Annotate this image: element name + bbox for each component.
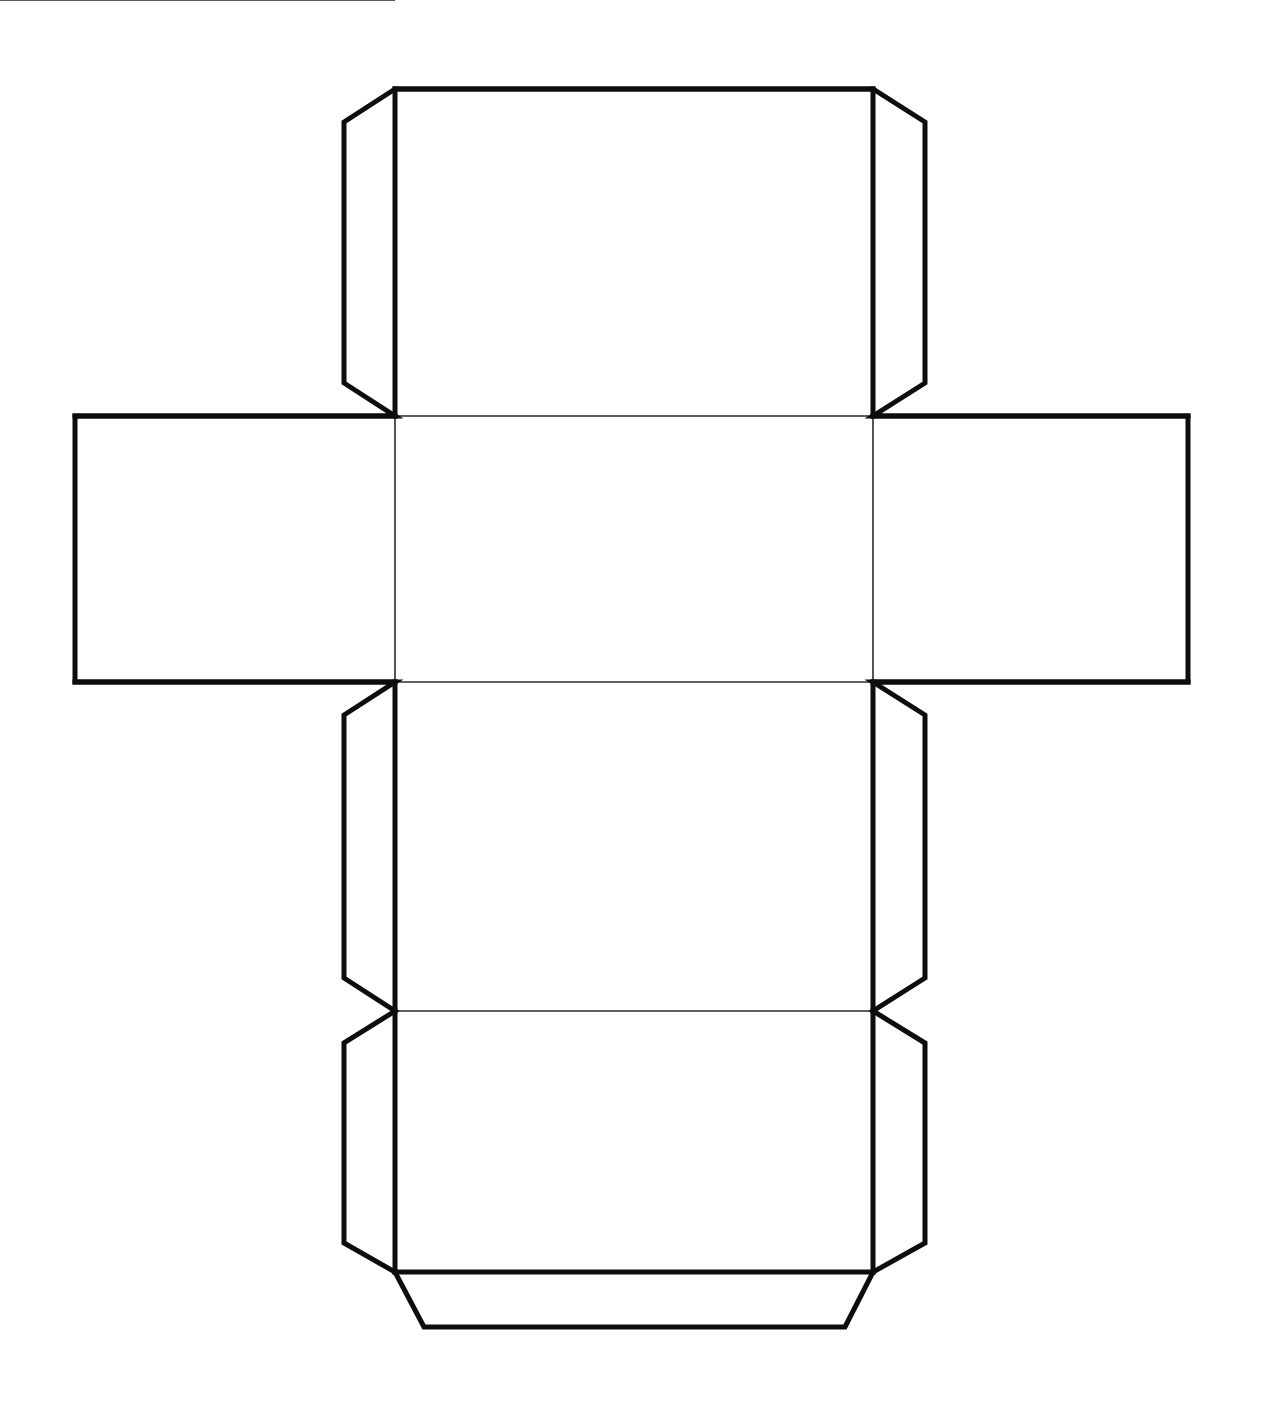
left-panel xyxy=(75,416,395,682)
flap-top-right xyxy=(873,89,925,416)
right-panel xyxy=(873,416,1188,682)
flap-mid-left xyxy=(344,682,395,1011)
flap-bottom-left xyxy=(344,1011,395,1272)
top-panel xyxy=(395,89,873,416)
flap-mid-right xyxy=(873,682,925,1011)
flap-bottom xyxy=(395,1272,873,1327)
flap-bottom-right xyxy=(873,1011,925,1272)
bottom-panel xyxy=(395,1011,873,1272)
cube-net-drawing xyxy=(0,0,1264,1406)
middle-lower-panel xyxy=(395,682,873,1011)
flap-top-left xyxy=(344,89,395,416)
center-panel xyxy=(395,416,873,682)
